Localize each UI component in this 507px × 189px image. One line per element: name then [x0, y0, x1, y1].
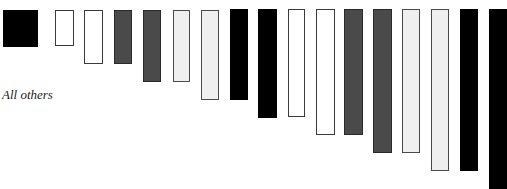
bar-12	[373, 9, 392, 153]
bar-2	[84, 10, 103, 64]
bar-8	[258, 9, 277, 118]
bar-3	[114, 10, 132, 64]
bar-15	[460, 9, 478, 171]
bar-1	[55, 10, 74, 46]
bar-5	[173, 10, 190, 82]
legend-label: All others	[2, 87, 53, 103]
bar-13	[402, 9, 420, 153]
bar-16	[489, 9, 507, 189]
bar-10	[316, 9, 335, 135]
bar-6	[201, 10, 219, 100]
bar-7	[230, 9, 248, 100]
bar-11	[344, 9, 363, 135]
legend-swatch	[3, 10, 38, 47]
bar-9	[288, 9, 305, 117]
bar-14	[431, 9, 449, 171]
bar-4	[143, 10, 161, 82]
